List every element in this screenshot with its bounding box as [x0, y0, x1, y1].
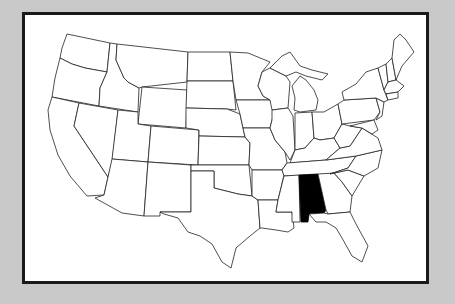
us-map — [0, 0, 455, 304]
state-south-dakota — [186, 81, 236, 110]
state-iowa — [236, 100, 275, 128]
state-kansas — [198, 136, 250, 165]
state-north-dakota — [187, 52, 233, 81]
state-michigan — [292, 76, 318, 112]
state-colorado — [148, 126, 199, 165]
state-wyoming — [138, 87, 187, 128]
state-maine — [392, 34, 414, 80]
state-new-mexico — [144, 162, 191, 216]
state-florida — [309, 212, 368, 262]
